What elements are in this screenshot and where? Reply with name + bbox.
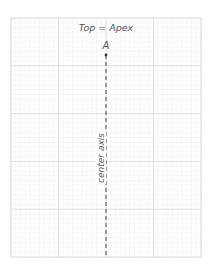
apex-point xyxy=(105,54,108,57)
axis-label-group: center axis xyxy=(96,132,106,184)
apex-label: A xyxy=(102,40,110,51)
axis-label: center axis xyxy=(96,133,106,183)
diagram-title: Top = Apex xyxy=(79,22,134,33)
diagram-canvas: Top = Apex A center axis xyxy=(0,0,213,271)
